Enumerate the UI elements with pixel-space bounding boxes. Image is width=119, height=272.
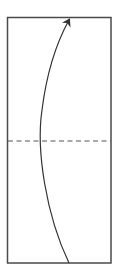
fold-diagram [0, 0, 119, 272]
paper-rectangle [8, 18, 112, 264]
